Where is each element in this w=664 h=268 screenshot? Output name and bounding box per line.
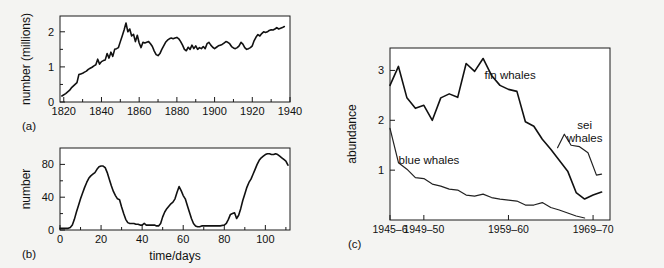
xticklabel-a: 1920 [240, 105, 264, 117]
yticklabel-a: 2 [48, 26, 54, 38]
xticklabel-c: 1959–60 [488, 223, 529, 235]
annotation-blue-whales: blue whales [399, 154, 460, 166]
xticklabel-a: 1900 [202, 105, 226, 117]
figure-svg: 1820184018601880190019201940012number (m… [0, 0, 664, 268]
xticklabel-c: 1949–50 [403, 223, 444, 235]
xticklabel-a: 1860 [127, 105, 151, 117]
annotation-sei-whales-line2: whales [566, 132, 603, 144]
xlabel-b: time/days [149, 249, 200, 263]
xticklabel-a: 1880 [165, 105, 189, 117]
figure-container: 1820184018601880190019201940012number (m… [0, 0, 664, 268]
yticklabel-b: 80 [42, 158, 54, 170]
panel-a: 1820184018601880190019201940012number (m… [19, 13, 302, 132]
xticklabel-b: 0 [57, 233, 63, 245]
panel-c: 1945–61949–501959–601969–70123fin whales… [345, 48, 614, 250]
ylabel-a: number (millions) [19, 13, 33, 105]
ylabel-b: number [19, 169, 33, 210]
ylabel-c: abundance [345, 104, 359, 164]
yticklabel-c: 3 [378, 64, 384, 76]
xticklabel-c: 1945–6 [372, 223, 407, 235]
yticklabel-c: 2 [378, 114, 384, 126]
plot-frame-b [60, 148, 290, 230]
xticklabel-b: 40 [136, 233, 148, 245]
panel-letter-c: (c) [348, 238, 362, 250]
yticklabel-b: 40 [42, 191, 54, 203]
xticklabel-b: 100 [256, 233, 274, 245]
panel-letter-b: (b) [22, 248, 36, 260]
annotation-fin-whales: fin whales [485, 69, 536, 81]
xticklabel-b: 80 [218, 233, 230, 245]
xticklabel-b: 60 [177, 233, 189, 245]
yticklabel-a: 1 [48, 61, 54, 73]
xticklabel-b: 20 [95, 233, 107, 245]
xticklabel-c: 1969–70 [573, 223, 614, 235]
annotation-sei-whales: sei [577, 119, 592, 131]
yticklabel-b: 0 [48, 224, 54, 236]
xticklabel-a: 1840 [89, 105, 113, 117]
panel-b: 02040608010004080numbertime/days(b) [19, 148, 290, 263]
yticklabel-c: 1 [378, 164, 384, 176]
yticklabel-a: 0 [48, 96, 54, 108]
xticklabel-a: 1820 [52, 105, 76, 117]
xticklabel-a: 1940 [278, 105, 302, 117]
panel-letter-a: (a) [22, 120, 36, 132]
plot-frame-a [60, 16, 290, 102]
